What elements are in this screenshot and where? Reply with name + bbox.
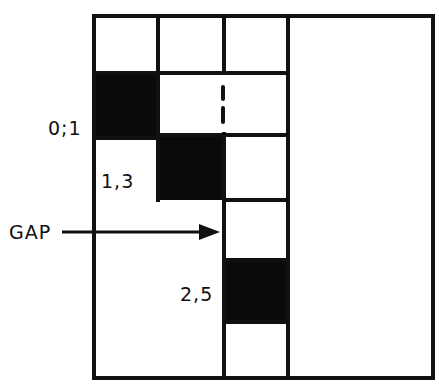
gap-arrow-icon bbox=[62, 224, 220, 240]
label-block-2-5: 2,5 bbox=[180, 285, 213, 304]
label-gap: GAP bbox=[9, 223, 51, 242]
filled-block-2-5 bbox=[224, 260, 289, 323]
filled-block-0-1 bbox=[94, 73, 159, 138]
label-block-1-3: 1,3 bbox=[101, 172, 134, 191]
allocation-diagram bbox=[0, 0, 439, 387]
filled-block-1-3 bbox=[158, 134, 225, 200]
label-block-0-1: 0;1 bbox=[48, 119, 82, 138]
